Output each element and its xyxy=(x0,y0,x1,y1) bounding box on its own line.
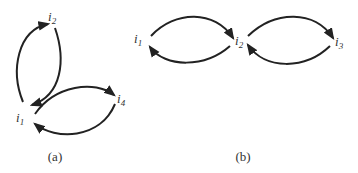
node-b-i2: i2 xyxy=(235,33,244,50)
node-b-i1: i1 xyxy=(134,31,142,48)
node-a-i1: i1 xyxy=(16,110,24,127)
node-a-i2: i2 xyxy=(48,9,57,26)
node-b-i3: i3 xyxy=(335,34,344,51)
caption-a: (a) xyxy=(48,149,62,164)
edge-a-i4-to-i1 xyxy=(35,104,115,134)
edge-b-i2-to-i1 xyxy=(150,46,230,63)
diagram-canvas: i2 i1 i4 (a) i1 i2 i3 (b) xyxy=(0,0,358,173)
node-a-i4: i4 xyxy=(117,91,126,108)
edge-b-i3-to-i2 xyxy=(248,45,330,64)
caption-b: (b) xyxy=(235,149,250,164)
diagram-a: i2 i1 i4 (a) xyxy=(16,9,126,164)
edge-a-i1-to-i4 xyxy=(35,87,114,114)
edge-a-i2-to-i1 xyxy=(32,28,61,105)
diagram-b: i1 i2 i3 (b) xyxy=(134,17,344,164)
edge-b-i1-to-i2 xyxy=(151,17,233,38)
edge-a-i1-to-i2 xyxy=(17,24,48,102)
edge-b-i2-to-i3 xyxy=(248,17,333,38)
